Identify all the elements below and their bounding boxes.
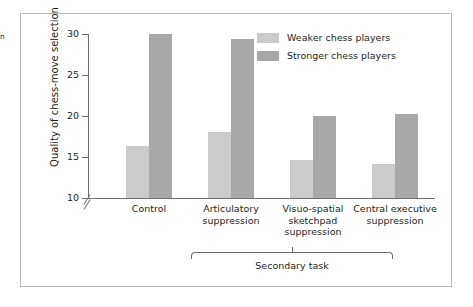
- y-tick-label-10: 10: [39, 193, 79, 203]
- bar-group: [126, 34, 172, 198]
- caption-fragment: n: [0, 32, 18, 42]
- secondary-task-label: Secondary task: [191, 260, 393, 271]
- legend-item: Stronger chess players: [257, 48, 442, 64]
- secondary-task-bracket: [191, 252, 393, 259]
- bar: [208, 132, 231, 198]
- category-label: Central executive suppression: [346, 203, 444, 226]
- y-tick-20: [82, 116, 89, 117]
- legend-label: Stronger chess players: [287, 51, 396, 61]
- y-tick-label-15: 15: [39, 152, 79, 162]
- axis-break-icon: [80, 194, 97, 210]
- bar: [395, 114, 418, 198]
- legend-item: Weaker chess players: [257, 30, 442, 46]
- x-axis-line: [88, 198, 435, 199]
- bar: [290, 160, 313, 198]
- legend-swatch: [257, 51, 279, 61]
- y-tick-label-30: 30: [39, 29, 79, 39]
- bar: [231, 39, 254, 198]
- bar: [149, 34, 172, 198]
- y-tick-25: [82, 75, 89, 76]
- legend-label: Weaker chess players: [287, 33, 390, 43]
- y-tick-30: [82, 34, 89, 35]
- bar: [372, 164, 395, 198]
- y-tick-label-20: 20: [39, 111, 79, 121]
- bar: [313, 116, 336, 198]
- legend-swatch: [257, 33, 279, 43]
- bar: [126, 146, 149, 198]
- legend: Weaker chess playersStronger chess playe…: [257, 30, 442, 66]
- bar-group: [208, 34, 254, 198]
- y-tick-15: [82, 157, 89, 158]
- plot-area: Quality of chess-move selection 10152025…: [21, 14, 453, 288]
- y-tick-label-25: 25: [39, 70, 79, 80]
- figure-frame: Quality of chess-move selection 10152025…: [20, 13, 452, 287]
